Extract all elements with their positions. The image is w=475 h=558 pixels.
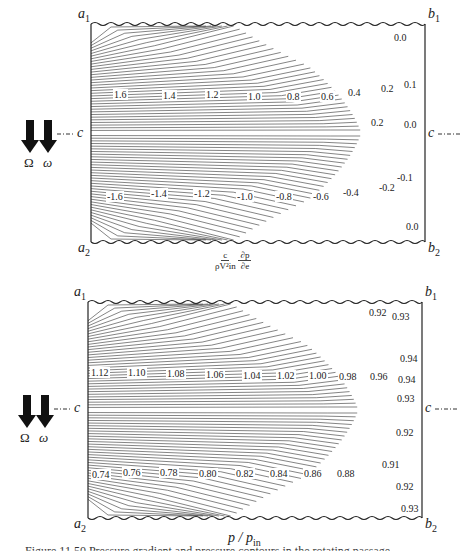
- corner-b2: b2: [425, 516, 437, 534]
- contour-label: 1.06: [205, 369, 225, 380]
- omega-small-symbol: ω: [43, 155, 52, 171]
- contour-label: 1.00: [308, 370, 328, 381]
- contour-label: 1.08: [166, 368, 186, 379]
- contour-label: 0.2: [380, 83, 395, 94]
- contour-label: 0.93: [400, 503, 420, 514]
- contour-label: 0.93: [391, 311, 411, 322]
- wavy-top-edge: [88, 301, 422, 304]
- centerline-label-right: c: [425, 400, 431, 416]
- contour-label: 1.4: [162, 90, 177, 101]
- omega-capital-symbol: Ω: [24, 155, 34, 171]
- contour-label: 0.2: [370, 117, 385, 128]
- rotation-arrows: [18, 395, 54, 428]
- wavy-bottom-edge: [88, 517, 422, 520]
- contour-label: 0.88: [336, 468, 356, 479]
- x-axis-label: cρV²in ∂p∂e: [215, 250, 251, 271]
- contour-label: 0.1: [403, 79, 418, 90]
- contour-label: 0.80: [198, 468, 218, 479]
- contour-label: 0.74: [91, 469, 111, 480]
- contour-label: 0.82: [235, 468, 255, 479]
- contour-label: -1.6: [106, 191, 124, 202]
- contour-label: 0.94: [399, 353, 419, 364]
- contour-label: 0.96: [369, 371, 389, 382]
- figure-caption: Figure 11.50 Pressure gradient and press…: [25, 544, 390, 558]
- corner-b1: b1: [425, 284, 437, 302]
- centerline-label-left: c: [74, 400, 80, 416]
- wavy-bottom-edge: [91, 241, 425, 244]
- corner-b2: b2: [428, 240, 440, 258]
- contour-label: 0.94: [397, 374, 417, 385]
- contour-label: 0.0: [403, 119, 418, 130]
- rotation-arrows: [21, 120, 57, 153]
- contour-label: 1.10: [127, 367, 147, 378]
- contour-label: 0.76: [122, 467, 142, 478]
- wavy-top-edge: [91, 23, 425, 26]
- contour-label: 0.86: [303, 468, 323, 479]
- contour-label: 1.02: [276, 370, 296, 381]
- corner-a2: a2: [74, 516, 86, 534]
- contour-label: 0.0: [405, 221, 420, 232]
- contour-label: 0.6: [320, 91, 335, 102]
- contour-label: -0.8: [275, 191, 293, 202]
- contour-label: 0.78: [159, 467, 179, 478]
- contour-label: -0.4: [342, 187, 360, 198]
- corner-a1: a1: [74, 284, 86, 302]
- omega-small-symbol: ω: [39, 430, 48, 446]
- contour-label: 1.12: [90, 367, 110, 378]
- centerline-label-right: c: [428, 125, 434, 141]
- contour-label: 0.8: [286, 91, 301, 102]
- contour-label: 0.98: [338, 371, 358, 382]
- corner-a1: a1: [78, 6, 90, 24]
- contour-label: -0.1: [396, 172, 414, 183]
- contour-label: 1.2: [205, 89, 220, 100]
- contour-label: 0.92: [395, 481, 415, 492]
- pressure-ratio-contour-plot: a1 b1 a2 b2 c c Ω ω 1.12 1.10 1.08 1.06 …: [0, 280, 475, 538]
- contour-label: -1.4: [150, 188, 168, 199]
- contour-label: -1.2: [193, 188, 211, 199]
- contour-label: 1.04: [242, 370, 262, 381]
- corner-b1: b1: [428, 6, 440, 24]
- contour-label: 0.92: [368, 307, 388, 318]
- contour-label: 1.0: [247, 91, 262, 102]
- contour-label: 0.91: [381, 459, 401, 470]
- contour-label: -0.2: [378, 182, 396, 193]
- contour-label: 0.84: [269, 468, 289, 479]
- contour-label: 0.92: [395, 427, 415, 438]
- contour-label: -1.0: [236, 191, 254, 202]
- contour-label: -0.6: [312, 191, 330, 202]
- contour-label: 0.0: [393, 32, 408, 43]
- centerline-label-left: c: [77, 125, 83, 141]
- omega-capital-symbol: Ω: [20, 430, 30, 446]
- pressure-gradient-contour-plot: a1 b1 a2 b2 c c Ω ω 1.6 1.4 1.2 1.0 0.8 …: [0, 0, 475, 280]
- contour-label: 0.4: [347, 87, 362, 98]
- contour-label: 1.6: [113, 89, 128, 100]
- contour-label: 0.93: [396, 393, 416, 404]
- corner-a2: a2: [78, 240, 90, 258]
